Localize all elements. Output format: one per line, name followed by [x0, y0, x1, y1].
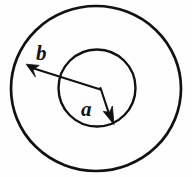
inner-radius-label: a — [81, 97, 92, 121]
annulus-figure: b a — [0, 0, 192, 177]
inner-radius-leader-line — [101, 88, 109, 113]
annulus-diagram-svg: b a — [0, 0, 192, 177]
outer-radius-leader-line — [32, 68, 101, 90]
inner-radius-arrowhead-icon — [103, 106, 114, 125]
outer-radius-label: b — [36, 41, 47, 65]
